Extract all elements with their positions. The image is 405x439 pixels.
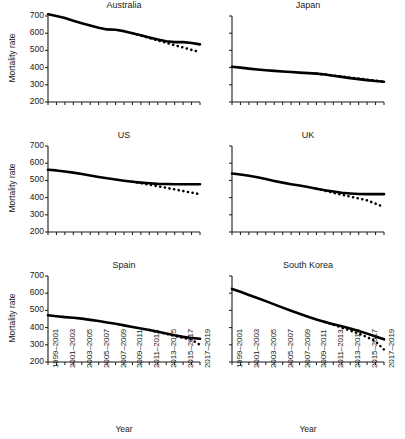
series-line-observed — [48, 170, 200, 184]
x-tick-label: 2003–2005 — [269, 329, 278, 368]
plot-area — [188, 130, 390, 246]
y-axis-title: Mortality rate — [7, 286, 17, 350]
x-tick-label: 2009–2011 — [319, 329, 328, 368]
y-tick-label: 700 — [12, 10, 44, 20]
x-tick-label: 2017–2019 — [387, 329, 396, 368]
panel-uk: UK — [188, 130, 390, 246]
x-tick-label: 1999–2001 — [51, 329, 60, 368]
x-axis-title: Year — [48, 424, 200, 434]
mortality-rate-small-multiples-figure: Australia200300400500600700Mortality rat… — [0, 0, 405, 439]
series-line-observed — [232, 67, 384, 82]
y-tick-label: 200 — [12, 356, 44, 366]
x-tick-label: 2007–2009 — [303, 329, 312, 368]
x-tick-label: 1999–2001 — [235, 329, 244, 368]
x-tick-label: 2005–2007 — [286, 329, 295, 368]
y-tick-label: 200 — [12, 96, 44, 106]
x-axis-title: Year — [232, 424, 384, 434]
panel-australia: Australia200300400500600700Mortality rat… — [4, 0, 206, 116]
plot-area — [188, 0, 390, 116]
x-tick-label: 2015–2017 — [370, 329, 379, 368]
panel-south-korea: South Korea1999–20012001–20032003–200520… — [188, 260, 390, 376]
y-axis-title: Mortality rate — [7, 156, 17, 220]
x-tick-label: 2011–2013 — [152, 329, 161, 368]
x-tick-label: 2013–2015 — [353, 329, 362, 368]
x-tick-label: 2013–2015 — [169, 329, 178, 368]
x-tick-label: 2009–2011 — [135, 329, 144, 368]
x-tick-label: 2001–2003 — [252, 329, 261, 368]
panel-spain: Spain200300400500600700Mortality rate199… — [4, 260, 206, 376]
y-tick-label: 200 — [12, 226, 44, 236]
x-tick-label: 2005–2007 — [102, 329, 111, 368]
series-line-observed — [48, 14, 200, 44]
x-tick-label: 2003–2005 — [85, 329, 94, 368]
panel-japan: Japan — [188, 0, 390, 116]
series-line-projected — [316, 189, 384, 207]
y-tick-label: 700 — [12, 140, 44, 150]
series-line-observed — [232, 174, 384, 195]
x-tick-label: 2007–2009 — [119, 329, 128, 368]
x-tick-label: 2011–2013 — [336, 329, 345, 368]
panel-us: US200300400500600700Mortality rate — [4, 130, 206, 246]
y-axis-title: Mortality rate — [7, 26, 17, 90]
y-tick-label: 700 — [12, 270, 44, 280]
x-tick-label: 2001–2003 — [68, 329, 77, 368]
